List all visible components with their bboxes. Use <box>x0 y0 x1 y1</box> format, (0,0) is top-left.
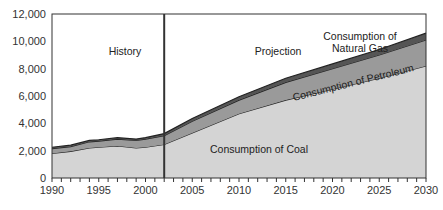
area-chart: 02,0004,0006,0008,00010,00012,000 199019… <box>0 0 443 210</box>
x-axis: 199019952000200520102015202020252030 <box>40 178 438 196</box>
x-tick-label: 2025 <box>367 184 391 196</box>
y-axis: 02,0004,0006,0008,00010,00012,000 <box>12 8 46 184</box>
x-tick-label: 2000 <box>133 184 157 196</box>
gas-label-line2: Natural Gas <box>332 42 388 54</box>
coal-label: Consumption of Coal <box>210 143 308 155</box>
x-tick-label: 2005 <box>180 184 204 196</box>
x-tick-label: 1990 <box>40 184 64 196</box>
gas-label-line1: Consumption of <box>323 30 397 42</box>
y-tick-label: 12,000 <box>12 8 46 20</box>
y-tick-label: 8,000 <box>18 63 46 75</box>
y-tick-label: 0 <box>40 172 46 184</box>
history-label: History <box>109 45 142 57</box>
x-tick-label: 2015 <box>274 184 298 196</box>
y-tick-label: 10,000 <box>12 35 46 47</box>
y-tick-label: 6,000 <box>18 90 46 102</box>
x-tick-label: 2010 <box>227 184 251 196</box>
x-tick-label: 2030 <box>414 184 438 196</box>
y-tick-label: 2,000 <box>18 145 46 157</box>
y-tick-label: 4,000 <box>18 117 46 129</box>
x-tick-label: 1995 <box>87 184 111 196</box>
x-tick-label: 2020 <box>320 184 344 196</box>
projection-label: Projection <box>255 45 302 57</box>
